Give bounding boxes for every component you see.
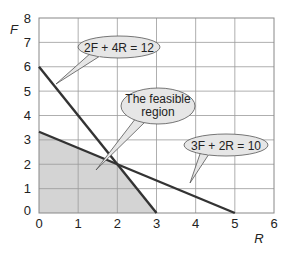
callout-3F-2R-10-text: 3F + 2R = 10 [191, 139, 261, 153]
y-tick-4: 4 [24, 108, 31, 123]
y-tick-2: 2 [24, 157, 31, 172]
x-axis-ticks: 0 1 2 3 4 5 6 [35, 216, 277, 231]
x-tick-5: 5 [231, 216, 238, 231]
callout-feasible-region-line2: region [141, 105, 174, 119]
callout-3F-2R-10: 3F + 2R = 10 [184, 134, 268, 183]
x-tick-0: 0 [35, 216, 42, 231]
x-axis-label: R [254, 231, 263, 246]
callout-2F-4R-12-text: 2F + 4R = 12 [84, 41, 154, 55]
y-tick-1: 1 [24, 181, 31, 196]
y-tick-3: 3 [24, 132, 31, 147]
y-axis-label: F [10, 22, 19, 37]
y-tick-5: 5 [24, 84, 31, 99]
y-tick-0: 0 [24, 203, 31, 218]
x-tick-4: 4 [192, 216, 199, 231]
y-tick-6: 6 [24, 59, 31, 74]
x-tick-6: 6 [270, 216, 277, 231]
linear-programming-chart: 2F + 4R = 12 The feasible region 3F + 2R… [0, 0, 292, 254]
x-tick-2: 2 [114, 216, 121, 231]
callout-feasible-region-line1: The feasible [125, 92, 191, 106]
y-tick-7: 7 [24, 35, 31, 50]
callout-2F-4R-12: 2F + 4R = 12 [56, 36, 160, 84]
y-tick-8: 8 [24, 11, 31, 26]
x-tick-3: 3 [153, 216, 160, 231]
x-tick-1: 1 [75, 216, 82, 231]
y-axis-ticks: 8 7 6 5 4 3 2 1 0 [24, 11, 31, 219]
